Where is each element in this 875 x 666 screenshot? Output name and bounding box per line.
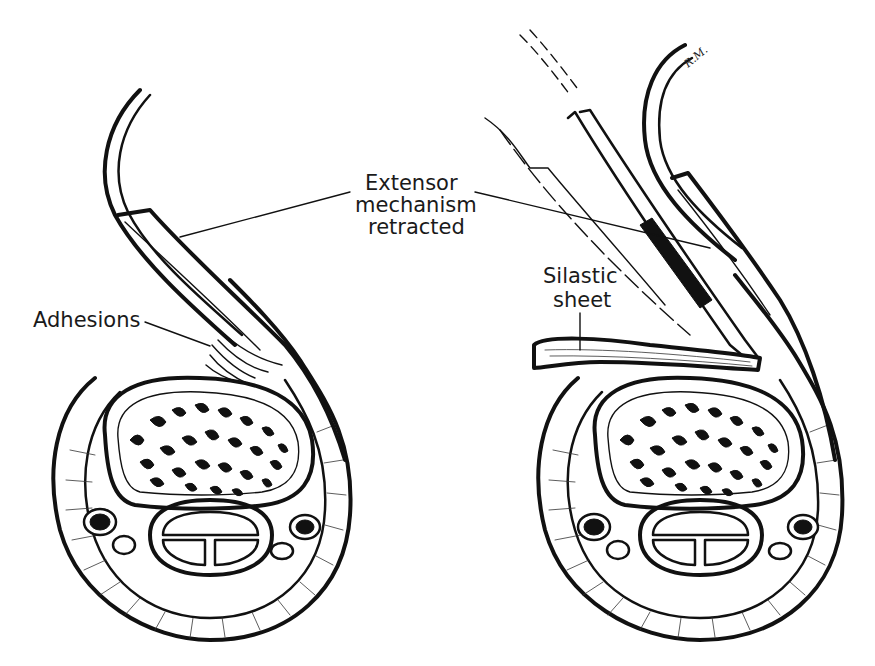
right-flexor-tendon-top: [653, 512, 748, 535]
right-artery-ulnar-lumen: [794, 520, 812, 534]
adhesions-leader-line: [145, 322, 210, 346]
left-flexor-tendon-bottom: [163, 540, 258, 565]
label-silastic-line1: Silastic: [543, 264, 617, 288]
right-flexor-tendon-bottom: [653, 540, 748, 565]
retractor-instrument: [485, 30, 760, 360]
left-flexor-tendon-top: [163, 512, 258, 535]
silastic-sheet: [534, 339, 760, 370]
left-artery-ulnar-lumen: [296, 520, 314, 534]
right-artery-radial-lumen: [584, 519, 604, 535]
labels: Extensor mechanism retracted Adhesions S…: [33, 43, 710, 332]
left-extensor-skin-flap-inner: [119, 95, 242, 335]
artist-signature: R.M.: [681, 43, 710, 71]
label-silastic-line2: sheet: [553, 288, 611, 312]
left-artery-radial-lumen: [90, 514, 110, 530]
right-nerve-ulnar: [769, 543, 791, 559]
right-nerve-radial: [607, 541, 629, 559]
left-extensor-tendon-inner: [125, 222, 260, 350]
label-extensor-line1: Extensor: [365, 171, 458, 195]
label-extensor-line2: mechanism: [355, 193, 477, 217]
label-adhesions: Adhesions: [33, 308, 140, 332]
left-nerve-radial: [113, 536, 135, 554]
left-cross-section: [53, 90, 350, 640]
left-nerve-ulnar: [271, 543, 293, 559]
right-cross-section: [485, 30, 842, 640]
label-extensor-line3: retracted: [368, 215, 465, 239]
extensor-leader-left: [180, 192, 350, 237]
figure-canvas: Extensor mechanism retracted Adhesions S…: [0, 0, 875, 666]
